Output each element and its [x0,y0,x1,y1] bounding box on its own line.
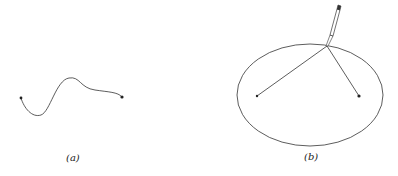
focus-left [256,95,258,97]
pin-left [20,97,23,100]
string-right [327,46,359,96]
diagram-canvas [0,0,398,176]
panel-b [237,5,383,146]
panel-a-label: (a) [66,152,80,163]
panel-b-label: (b) [304,151,318,162]
pencil-icon [326,5,341,46]
focus-right [357,94,360,97]
panel-a [20,78,124,116]
pin-right [120,95,123,98]
string-curve [21,78,122,116]
